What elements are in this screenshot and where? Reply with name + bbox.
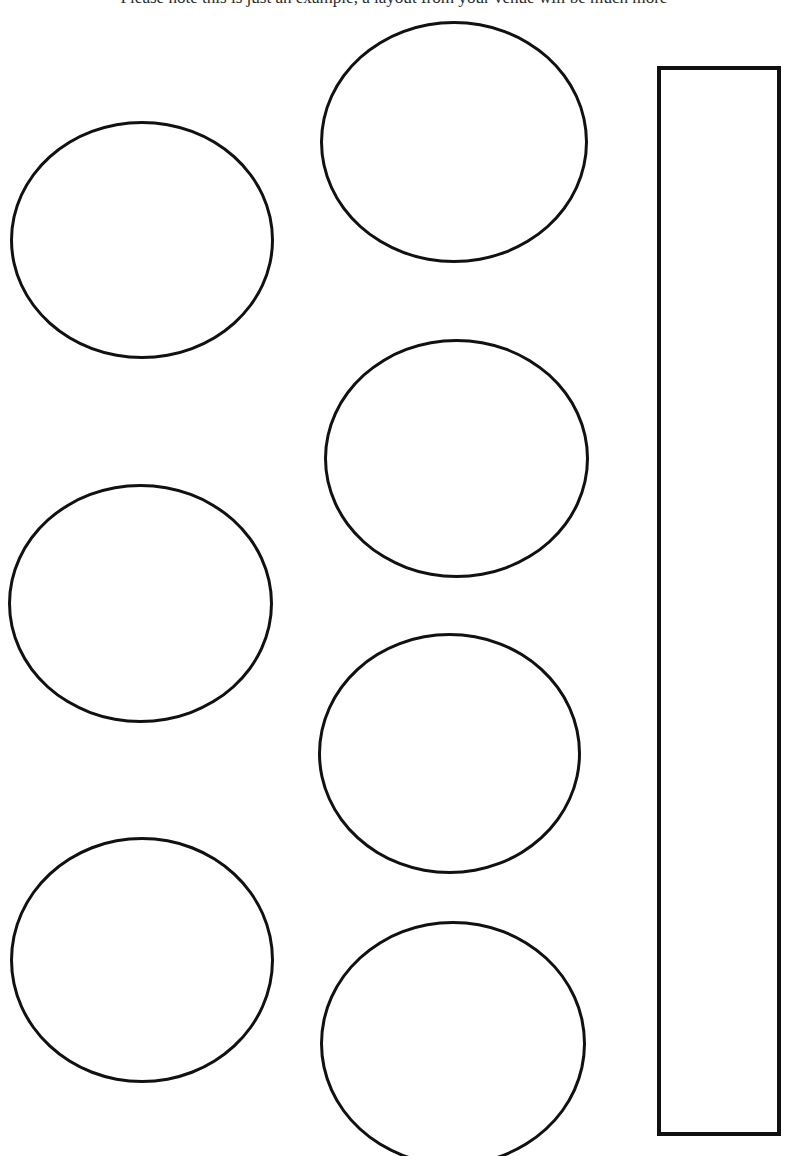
round-table-middle-2[interactable] (324, 339, 589, 578)
round-table-left-3[interactable] (10, 837, 274, 1083)
round-table-left-2[interactable] (8, 484, 273, 723)
note-strip: Please note this is just an example, a l… (0, 0, 788, 13)
round-table-middle-4[interactable] (320, 921, 586, 1156)
round-table-middle-1[interactable] (320, 21, 588, 263)
rectangular-table-right[interactable] (657, 66, 781, 1136)
round-table-middle-3[interactable] (318, 633, 581, 874)
floor-plan-page: Please note this is just an example, a l… (0, 0, 788, 1156)
disclaimer-note: Please note this is just an example, a l… (0, 0, 788, 8)
round-table-left-1[interactable] (10, 121, 274, 359)
